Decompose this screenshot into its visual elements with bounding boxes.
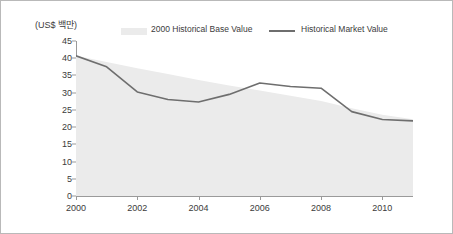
chart-svg — [76, 41, 413, 196]
y-tick-mark — [72, 92, 76, 93]
x-tick-mark — [260, 196, 261, 200]
x-tick-mark — [382, 196, 383, 200]
legend-item-base-value: 2000 Historical Base Value — [151, 24, 252, 34]
legend-item-market-value: Historical Market Value — [301, 24, 388, 34]
x-tick-mark — [137, 196, 138, 200]
y-tick-mark — [72, 109, 76, 110]
y-tick-label: 10 — [62, 157, 72, 167]
x-tick-mark — [321, 196, 322, 200]
legend-area-swatch-icon — [121, 28, 147, 35]
y-tick-label: 15 — [62, 139, 72, 149]
y-tick-mark — [72, 127, 76, 128]
plot-area: 454035302520151050 200020022004200620082… — [76, 41, 413, 196]
y-tick-mark — [72, 75, 76, 76]
y-tick-mark — [72, 58, 76, 59]
y-tick-label: 35 — [62, 70, 72, 80]
series-base-value-area — [76, 56, 413, 196]
x-tick-mark — [199, 196, 200, 200]
y-tick-label: 40 — [62, 53, 72, 63]
legend-line-swatch-icon — [269, 30, 295, 32]
y-tick-mark — [72, 41, 76, 42]
y-tick-mark — [72, 178, 76, 179]
y-tick-mark — [72, 144, 76, 145]
x-tick-label: 2006 — [250, 203, 270, 213]
chart-legend: 2000 Historical Base Value Historical Ma… — [121, 23, 431, 37]
x-tick-label: 2002 — [127, 203, 147, 213]
y-tick-label: 20 — [62, 122, 72, 132]
y-axis-unit-label: (US$ 백만) — [35, 18, 77, 31]
chart-screenshot: (US$ 백만) 2000 Historical Base Value Hist… — [0, 0, 453, 234]
x-tick-mark — [76, 196, 77, 200]
x-axis-line — [76, 196, 413, 197]
y-tick-label: 30 — [62, 88, 72, 98]
y-tick-label: 25 — [62, 105, 72, 115]
y-tick-mark — [72, 161, 76, 162]
x-tick-label: 2004 — [189, 203, 209, 213]
x-tick-label: 2010 — [372, 203, 392, 213]
x-tick-label: 2000 — [66, 203, 86, 213]
x-tick-label: 2008 — [311, 203, 331, 213]
y-tick-label: 45 — [62, 36, 72, 46]
